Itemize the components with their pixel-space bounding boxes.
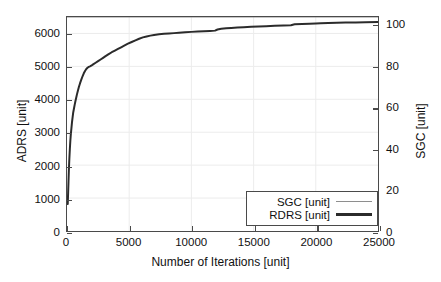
tick-mark — [67, 200, 72, 201]
y-right-tick-label: 60 — [386, 101, 399, 113]
legend-swatch-rdrs — [336, 210, 372, 220]
chart-figure: 0100020003000400050006000 020406080100 0… — [0, 0, 441, 282]
x-tick-label: 10000 — [175, 236, 207, 248]
series-line — [68, 22, 378, 204]
x-tick-label: 5000 — [116, 236, 142, 248]
y-right-tick-label: 20 — [386, 184, 399, 196]
tick-mark — [67, 67, 72, 68]
tick-mark — [373, 108, 378, 109]
tick-mark — [67, 167, 72, 168]
tick-mark — [130, 226, 131, 231]
y-left-tick-label: 5000 — [34, 60, 60, 72]
y-left-tick-label: 6000 — [34, 27, 60, 39]
legend-label-sgc: SGC [unit] — [277, 196, 330, 208]
tick-mark — [373, 25, 378, 26]
x-tick-label: 25000 — [363, 236, 395, 248]
tick-mark — [67, 100, 72, 101]
y-axis-left-title: ADRS [unit] — [15, 71, 29, 191]
tick-mark — [373, 233, 378, 234]
y-left-tick-label: 2000 — [34, 160, 60, 172]
x-tick-label: 20000 — [300, 236, 332, 248]
tick-mark — [67, 233, 72, 234]
chart-legend: SGC [unit] RDRS [unit] — [246, 191, 378, 226]
tick-mark — [67, 226, 68, 231]
y-left-tick-label: 4000 — [34, 93, 60, 105]
tick-mark — [317, 226, 318, 231]
tick-mark — [67, 133, 72, 134]
x-axis-title: Number of Iterations [unit] — [0, 255, 441, 269]
tick-mark — [373, 67, 378, 68]
legend-item-sgc: SGC [unit] — [252, 195, 372, 208]
y-right-tick-label: 40 — [386, 143, 399, 155]
tick-mark — [67, 34, 72, 35]
y-right-tick-label: 80 — [386, 60, 399, 72]
tick-mark — [380, 226, 381, 231]
legend-item-rdrs: RDRS [unit] — [252, 208, 372, 221]
x-tick-label: 0 — [63, 236, 69, 248]
y-right-tick-label: 100 — [386, 18, 405, 30]
tick-mark — [192, 226, 193, 231]
legend-swatch-sgc — [336, 197, 372, 207]
tick-mark — [373, 150, 378, 151]
y-left-tick-label: 0 — [54, 226, 60, 238]
tick-mark — [255, 226, 256, 231]
legend-label-rdrs: RDRS [unit] — [269, 209, 330, 221]
y-left-tick-label: 3000 — [34, 126, 60, 138]
x-tick-label: 15000 — [238, 236, 270, 248]
y-left-tick-label: 1000 — [34, 193, 60, 205]
y-axis-right-title: SGC [unit] — [414, 71, 428, 191]
